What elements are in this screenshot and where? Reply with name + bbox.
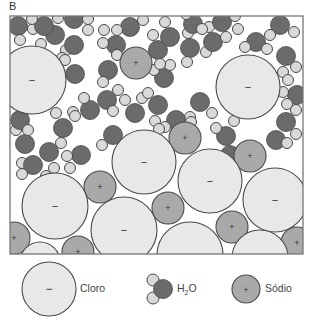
oxygen-atom [277,113,296,132]
oxygen-atom [16,135,35,154]
hydrogen-atom [291,105,302,116]
hydrogen-atom [56,4,67,15]
water-label-o: O [189,282,197,294]
svg-text:−: − [45,282,52,296]
hydrogen-atom [108,106,119,117]
legend-water-icon [147,274,173,304]
plus-sign-icon: + [165,203,170,213]
oxygen-atom [161,28,180,47]
water-molecule [265,16,300,41]
hydrogen-atom [283,75,294,86]
minus-sign-icon: − [187,249,193,261]
legend-label-water: H2O [177,282,197,296]
hydrogen-atom [155,59,166,70]
hydrogen-atom [160,17,171,28]
legend-label-cloro: Cloro [80,282,105,294]
hydrogen-atom [27,14,38,25]
oxygen-atom [121,18,140,37]
hydrogen-atom [98,38,109,49]
plus-sign-icon: + [11,233,16,243]
sodium-ion: + [120,47,152,79]
hydrogen-atom [282,138,293,149]
oxygen-atom [149,96,168,115]
hydrogen-atom [23,125,34,136]
oxygen-atom [72,146,91,165]
plus-sign-icon: + [294,238,299,248]
hydrogen-atom [262,44,273,55]
chloride-ion: − [157,222,223,288]
water-molecule [112,15,149,37]
hydrogen-atom [83,25,94,36]
hydrogen-atom [148,30,159,41]
hydrogen-atom [165,60,176,71]
water-molecule [120,93,148,123]
minus-sign-icon: − [245,81,251,93]
hydrogen-atom [65,163,76,174]
plus-sign-icon: + [247,151,252,161]
hydrogen-atom [53,13,64,24]
oxygen-atom [9,17,28,36]
chloride-ion: − [91,197,157,263]
hydrogen-atom [15,35,26,46]
hydrogen-atom [197,24,208,35]
water-label-h: H [177,282,185,294]
hydrogen-atom [113,85,124,96]
water-molecule [98,50,123,88]
hydrogen-atom [98,77,109,88]
minus-sign-icon: − [207,175,213,187]
sodium-ion: + [84,171,116,203]
chloride-ion: − [216,55,280,119]
hydrogen-atom [70,111,81,122]
chloride-ion-circle [157,222,223,288]
hydrogen-atom [289,27,300,38]
sodium-ion: + [62,236,94,268]
hydrogen-atom [221,32,232,43]
minus-sign-icon: − [29,74,35,86]
water-molecule [143,88,168,127]
plus-sign-icon: + [75,247,80,257]
legend: − + [22,262,260,316]
hydrogen-atom [181,9,192,20]
oxygen-atom [65,36,84,55]
hydrogen-atom [56,138,67,149]
hydrogen-atom [62,151,73,162]
hydrogen-atom [97,140,108,151]
hydrogen-atom [143,88,154,99]
hydrogen-atom [240,42,251,53]
chloride-ion: − [22,173,88,239]
water-molecule [211,116,240,146]
hydrogen-atom [51,108,62,119]
water-molecule [278,75,307,105]
oxygen-atom [65,10,84,29]
water-molecule [51,108,81,138]
water-molecule [213,11,244,35]
oxygen-atom [191,93,210,112]
hydrogen-atom [79,93,90,104]
plus-sign-icon: + [133,58,138,68]
plus-sign-icon: + [97,182,102,192]
oxygen-atom [54,119,73,138]
minus-sign-icon: − [121,224,127,236]
hydrogen-atom [112,25,123,36]
hydrogen-atom [291,129,302,140]
hydrogen-atom [182,57,193,68]
hydrogen-atom [211,123,222,134]
minus-sign-icon: − [52,200,58,212]
minus-sign-icon: − [272,194,278,206]
water-molecule [277,47,302,78]
hydrogen-atom [99,25,110,36]
svg-text:+: + [243,285,248,295]
chloride-ion: − [243,168,307,232]
plus-sign-icon: + [229,222,234,232]
oxygen-atom [181,39,200,58]
nacl-solution-diagram: +++++++++−−−−−−−−−− − + [0,0,314,326]
sodium-ion: + [152,192,184,224]
hydrogen-atom [233,24,244,35]
plus-sign-icon: + [182,133,187,143]
hydrogen-atom [291,62,302,73]
hydrogen-atom [120,95,131,106]
chloride-ion: − [178,149,242,213]
chloride-ion: − [112,130,176,194]
hydrogen-atom [265,30,276,41]
legend-cloro-icon: − [22,262,76,316]
